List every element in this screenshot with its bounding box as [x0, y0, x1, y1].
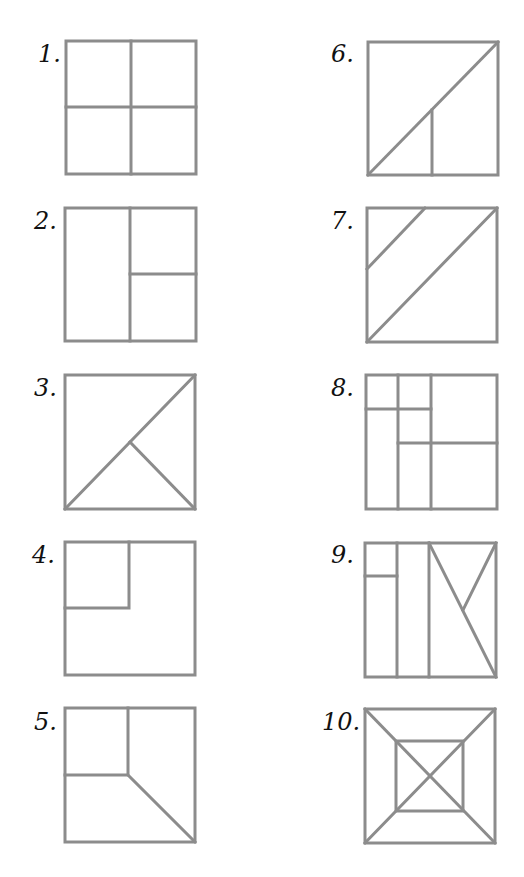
- figure-label-6: 6.: [331, 40, 354, 68]
- figure-label-5: 5.: [34, 708, 57, 736]
- figure-4: [65, 542, 195, 675]
- figure-label-2: 2.: [34, 207, 57, 235]
- figure-label-7: 7.: [331, 207, 354, 235]
- figure-label-8: 8.: [331, 374, 354, 402]
- figure-7: [367, 208, 497, 342]
- figure-6: [368, 42, 498, 175]
- figure-3: [65, 375, 195, 509]
- figure-1: [66, 41, 196, 174]
- figure-2: [65, 208, 196, 341]
- figure-5: [65, 708, 195, 842]
- figure-8: [366, 375, 497, 509]
- figure-label-3: 3.: [34, 374, 57, 402]
- figure-label-1: 1.: [38, 40, 61, 68]
- figure-label-10: 10.: [322, 708, 360, 736]
- diagram-canvas: [0, 0, 524, 877]
- figure-label-9: 9.: [331, 541, 354, 569]
- figure-10: [365, 709, 495, 843]
- figure-9: [365, 543, 496, 677]
- figure-label-4: 4.: [32, 541, 55, 569]
